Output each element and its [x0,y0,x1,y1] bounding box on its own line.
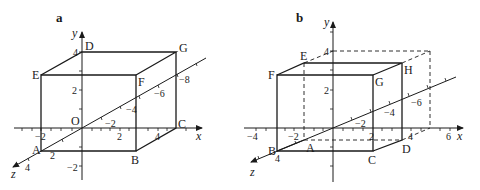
y-tick: −2 [67,162,78,173]
y-tick: 4 [73,47,78,58]
vertex-d: D [402,142,411,156]
figure: a y x z O D G E F C B A −2 2 4 4 2 −2 −2… [0,0,480,190]
z-tick: 2 [50,150,55,161]
x-axis-label: x [456,129,463,143]
x-tick: 2 [369,131,374,142]
vertex-c: C [368,153,376,167]
x-axis-label: x [195,129,202,143]
y-axis-label: y [71,26,78,40]
y-tick: 2 [72,85,77,96]
z-tick: −2 [355,118,366,129]
coordinate-diagrams: a y x z O D G E F C B A −2 2 4 4 2 −2 −2… [0,0,480,190]
panel-a-labels: a y x z O D G E F C B A −2 2 4 4 2 −2 −2… [10,10,202,181]
x-tick: 4 [408,131,413,142]
x-tick: 4 [155,131,160,142]
z-tick: −4 [384,107,395,118]
z-axis-label: z [249,165,255,179]
z-tick: 4 [25,162,30,173]
z-tick: −8 [179,74,190,85]
y-tick: 4 [324,46,329,57]
y-tick: 2 [324,85,329,96]
panel-label-a: a [56,10,63,25]
vertex-g: G [179,41,188,55]
x-tick: −2 [288,131,299,142]
z-tick: −6 [411,97,422,108]
y-axis-label: y [323,15,330,29]
vertex-e: E [32,68,39,82]
x-tick: 6 [446,131,451,142]
vertex-h: H [404,63,413,77]
z-tick: −4 [126,104,137,115]
panel-a [13,32,206,180]
z-axis-label: z [10,167,16,181]
vertex-d: D [85,39,94,53]
panel-b-labels: b y x z E H F G B A C D −4 −2 2 4 6 4 2 … [247,10,463,179]
vertex-g: G [375,75,384,89]
x-tick: −4 [247,131,258,142]
vertex-f: F [268,68,275,82]
vertex-f: F [138,75,145,89]
x-tick: −2 [35,131,46,142]
z-tick: −6 [154,88,165,99]
vertex-b: B [131,153,139,167]
origin-label: O [71,114,80,128]
vertex-a: A [32,143,41,157]
x-tick: 2 [117,131,122,142]
vertex-e: E [300,49,307,63]
vertex-a: A [306,141,315,155]
vertex-c: C [178,117,186,131]
panel-label-b: b [296,10,303,25]
z-tick: 4 [275,153,280,164]
z-tick: −2 [105,118,116,129]
